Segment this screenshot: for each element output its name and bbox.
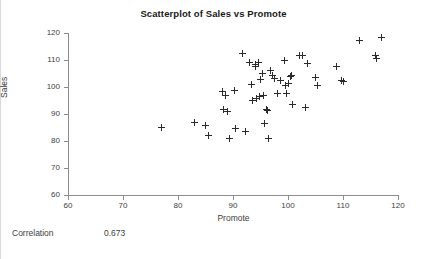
data-point: [252, 61, 259, 68]
x-tick-label: 90: [218, 201, 248, 210]
data-point: [220, 106, 227, 113]
data-point: [255, 59, 262, 66]
plot-area: [68, 33, 398, 195]
data-point: [296, 52, 303, 59]
x-tick-mark: [288, 196, 289, 200]
data-point: [356, 37, 363, 44]
y-tick-label: 90: [34, 109, 60, 118]
data-point: [304, 60, 311, 67]
data-point: [261, 120, 268, 127]
data-point: [285, 80, 292, 87]
data-point: [242, 128, 249, 135]
data-point: [264, 107, 271, 114]
data-point: [271, 75, 278, 82]
data-point: [287, 73, 294, 80]
data-point: [274, 90, 281, 97]
data-point: [378, 34, 385, 41]
x-tick-mark: [233, 196, 234, 200]
correlation-value: 0.673: [104, 228, 125, 238]
data-point: [372, 52, 379, 59]
data-point: [191, 119, 198, 126]
x-tick-mark: [178, 196, 179, 200]
scatterplot-figure: Scatterplot of Sales vs Promote 60708090…: [0, 0, 427, 259]
data-point: [202, 122, 209, 129]
data-point: [277, 77, 284, 84]
data-point: [253, 95, 260, 102]
data-point: [256, 93, 263, 100]
x-tick-mark: [398, 196, 399, 200]
data-point: [257, 76, 264, 83]
y-tick-label: 60: [34, 190, 60, 199]
data-point: [288, 72, 295, 79]
data-point: [312, 74, 319, 81]
data-point: [222, 92, 229, 99]
page-left-edge: [0, 0, 1, 259]
x-tick-label: 80: [163, 201, 193, 210]
data-point: [373, 55, 380, 62]
data-point: [269, 72, 276, 79]
x-tick-label: 110: [328, 201, 358, 210]
data-point: [249, 97, 256, 104]
data-point: [267, 67, 274, 74]
data-point: [260, 92, 267, 99]
y-tick-label: 100: [34, 82, 60, 91]
x-tick-mark: [343, 196, 344, 200]
correlation-footer: Correlation 0.673: [0, 228, 427, 248]
data-point: [239, 50, 246, 57]
data-point: [289, 101, 296, 108]
x-axis-label: Promote: [68, 213, 399, 223]
chart-title: Scatterplot of Sales vs Promote: [0, 8, 427, 19]
data-point: [259, 70, 266, 77]
y-tick-label: 120: [34, 28, 60, 37]
correlation-label: Correlation: [12, 228, 54, 238]
data-point: [282, 82, 289, 89]
x-tick-label: 120: [383, 201, 413, 210]
data-point: [158, 124, 165, 131]
data-point: [224, 108, 231, 115]
data-point: [333, 63, 340, 70]
data-point: [338, 77, 345, 84]
data-point: [226, 135, 233, 142]
data-point: [283, 90, 290, 97]
y-tick-label: 110: [34, 55, 60, 64]
data-point: [299, 52, 306, 59]
data-point: [263, 106, 270, 113]
x-tick-label: 100: [273, 201, 303, 210]
data-point: [205, 132, 212, 139]
data-point: [248, 81, 255, 88]
x-tick-label: 60: [53, 201, 83, 210]
data-point: [265, 135, 272, 142]
data-point: [232, 125, 239, 132]
data-point: [314, 82, 321, 89]
y-tick-label: 80: [34, 136, 60, 145]
y-tick-label: 70: [34, 163, 60, 172]
x-tick-mark: [68, 196, 69, 200]
data-point: [302, 104, 309, 111]
data-point: [231, 87, 238, 94]
data-point: [252, 63, 259, 70]
data-point: [219, 88, 226, 95]
x-tick-mark: [123, 196, 124, 200]
x-tick-label: 70: [108, 201, 138, 210]
data-point: [281, 57, 288, 64]
data-point: [340, 78, 347, 85]
y-axis-label: Sales: [0, 77, 9, 98]
data-point: [246, 59, 253, 66]
